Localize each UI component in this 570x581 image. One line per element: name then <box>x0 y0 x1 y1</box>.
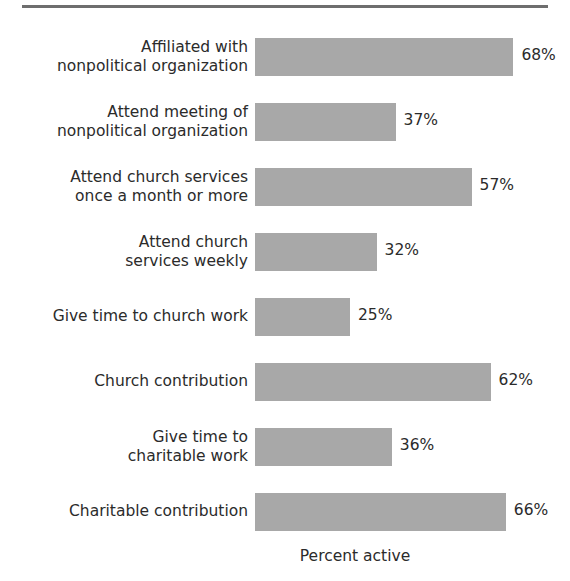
bar-row: Give time to church work25% <box>0 298 570 336</box>
bar <box>255 363 491 401</box>
x-axis-label: Percent active <box>255 547 455 566</box>
bar-value-label: 25% <box>358 306 392 325</box>
bar <box>255 168 472 206</box>
bar-category-label: Attend church services weekly <box>18 233 248 271</box>
bar <box>255 428 392 466</box>
bar-category-label: Give time to charitable work <box>18 428 248 466</box>
bar-value-label: 57% <box>480 176 514 195</box>
bar-value-label: 66% <box>514 501 548 520</box>
bar <box>255 103 396 141</box>
bar <box>255 38 513 76</box>
bar-row: Give time to charitable work36% <box>0 428 570 466</box>
bar-value-label: 37% <box>404 111 438 130</box>
top-rule-divider <box>22 5 548 8</box>
bar-row: Affiliated with nonpolitical organizatio… <box>0 38 570 76</box>
bar-category-label: Give time to church work <box>18 307 248 326</box>
bar-category-label: Charitable contribution <box>18 502 248 521</box>
bar-category-label: Attend meeting of nonpolitical organizat… <box>18 103 248 141</box>
bar-category-label: Affiliated with nonpolitical organizatio… <box>18 38 248 76</box>
bar-category-label: Church contribution <box>18 372 248 391</box>
bar-value-label: 68% <box>521 46 555 65</box>
bar-row: Church contribution62% <box>0 363 570 401</box>
bar <box>255 298 350 336</box>
bar-value-label: 32% <box>385 241 419 260</box>
bar-chart: Affiliated with nonpolitical organizatio… <box>0 0 570 581</box>
bar <box>255 233 377 271</box>
bar <box>255 493 506 531</box>
plot-area: Affiliated with nonpolitical organizatio… <box>0 20 570 525</box>
bar-category-label: Attend church services once a month or m… <box>18 168 248 206</box>
bar-row: Charitable contribution66% <box>0 493 570 531</box>
bar-row: Attend church services once a month or m… <box>0 168 570 206</box>
bar-row: Attend meeting of nonpolitical organizat… <box>0 103 570 141</box>
bar-value-label: 62% <box>499 371 533 390</box>
bar-row: Attend church services weekly32% <box>0 233 570 271</box>
bar-value-label: 36% <box>400 436 434 455</box>
